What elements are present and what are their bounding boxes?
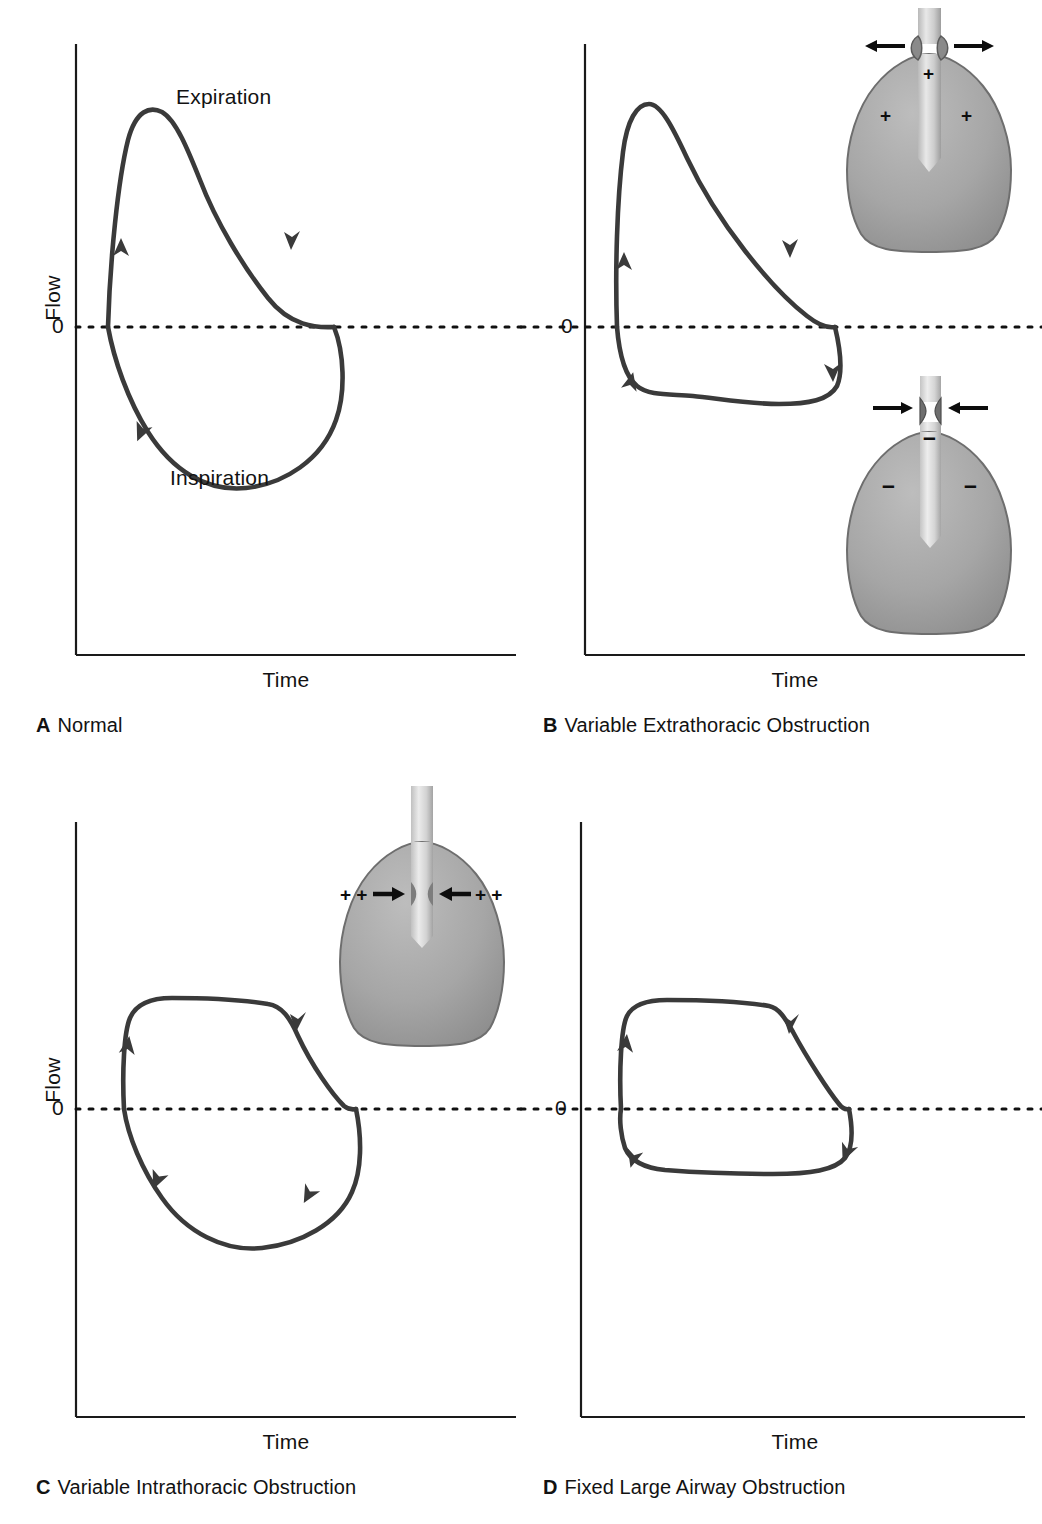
- panel-a-inspiration-curve: [108, 327, 343, 488]
- panel-b-caption: BVariable Extrathoracic Obstruction: [543, 714, 870, 737]
- sign-left-lung-minus: –: [882, 474, 895, 497]
- panel-d-letter: D: [543, 1476, 558, 1498]
- sign-right-lung-plus: +: [961, 106, 972, 125]
- sign-airway-minus: –: [923, 426, 936, 449]
- sign-right-lung-plusplus: + +: [475, 885, 502, 904]
- lung-expiration-extrathoracic: + + +: [817, 8, 1042, 258]
- x-axis-label: Time: [226, 1430, 346, 1454]
- arrow-inward-left: [873, 402, 913, 414]
- panel-c-letter: C: [36, 1476, 51, 1498]
- panel-b-arrow-expiration-down: [782, 239, 798, 258]
- panel-a-caption: ANormal: [36, 714, 123, 737]
- panel-b-caption-text: Variable Extrathoracic Obstruction: [565, 714, 870, 736]
- inspiration-label: Inspiration: [170, 466, 269, 490]
- panel-c-arrow-inspiration-down: [297, 1183, 320, 1207]
- panel-a-expiration-curve: [108, 110, 334, 328]
- flow-volume-loop-figure: Flow 0 Time Expiration Inspiration ANorm…: [0, 0, 1042, 1524]
- sign-left-lung-plus: +: [880, 106, 891, 125]
- lung-diagram-svg: [817, 8, 1042, 258]
- panel-c-caption-text: Variable Intrathoracic Obstruction: [58, 1476, 357, 1498]
- x-axis-label: Time: [735, 668, 855, 692]
- panel-d-plot: [521, 762, 1042, 1462]
- sign-airway-plus: +: [923, 64, 934, 83]
- y-zero-tick-label: 0: [561, 315, 573, 336]
- panel-d-caption-text: Fixed Large Airway Obstruction: [565, 1476, 846, 1498]
- panel-b-inspiration-curve: [617, 327, 841, 404]
- panel-a-normal: Flow 0 Time Expiration Inspiration ANorm…: [0, 0, 521, 762]
- panel-c-variable-intrathoracic: Flow 0 Time: [0, 762, 521, 1524]
- expiration-label: Expiration: [176, 85, 271, 109]
- glottis-right-leaflet: [937, 36, 948, 60]
- panel-d-expiration-curve: [620, 1000, 849, 1109]
- arrow-outward-left: [865, 40, 905, 52]
- y-zero-tick-label: 0: [52, 1097, 64, 1118]
- sign-left-lung-plusplus: + +: [340, 885, 367, 904]
- lung-inspiration-extrathoracic: – – –: [817, 376, 1042, 641]
- lung-diagram-svg: [305, 786, 540, 1051]
- panel-d-caption: DFixed Large Airway Obstruction: [543, 1476, 845, 1499]
- arrow-outward-right: [954, 40, 994, 52]
- upper-trachea-segment: [918, 8, 941, 44]
- panel-d-inspiration-curve: [620, 1109, 851, 1174]
- panel-b-letter: B: [543, 714, 558, 736]
- x-axis-label: Time: [226, 668, 346, 692]
- panel-c-arrow-expiration-up: [119, 1035, 137, 1055]
- arrow-inward-right: [948, 402, 988, 414]
- y-zero-tick-label: 0: [555, 1097, 567, 1118]
- sign-right-lung-minus: –: [964, 474, 977, 497]
- x-axis-label: Time: [735, 1430, 855, 1454]
- lung-diagram-svg: [817, 376, 1042, 641]
- panel-a-letter: A: [36, 714, 51, 736]
- panel-a-arrow-expiration-down: [284, 231, 300, 250]
- panel-a-caption-text: Normal: [58, 714, 123, 736]
- upper-trachea-segment: [920, 376, 941, 402]
- panel-c-caption: CVariable Intrathoracic Obstruction: [36, 1476, 356, 1499]
- y-zero-tick-label: 0: [52, 315, 64, 336]
- panel-b-variable-extrathoracic: 0 Time: [521, 0, 1042, 762]
- panel-b-expiration-curve: [616, 104, 835, 327]
- panel-d-fixed-large-airway: 0 Time DFixed Large Airway Obstruction: [521, 762, 1042, 1524]
- lung-expiration-intrathoracic: + + + +: [305, 786, 540, 1051]
